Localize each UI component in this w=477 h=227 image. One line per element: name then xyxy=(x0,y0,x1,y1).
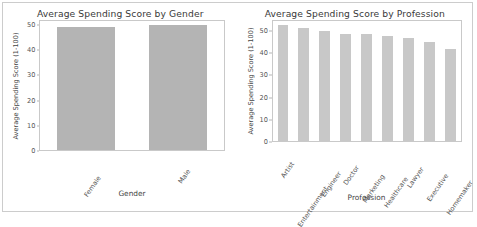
bar-artist[interactable] xyxy=(278,25,289,141)
bar-slot xyxy=(132,21,224,150)
y-tick-label: 40 xyxy=(27,46,35,54)
x-tick-slot: Executive xyxy=(419,146,440,186)
bar-slot xyxy=(377,21,398,141)
bar-female[interactable] xyxy=(57,27,114,150)
y-tick-mark xyxy=(37,125,40,126)
y-tick-mark xyxy=(37,151,40,152)
y-tick-mark xyxy=(269,142,272,143)
bar-slot xyxy=(314,21,335,141)
x-axis-label-gender: Gender xyxy=(39,189,225,198)
y-tick-mark xyxy=(37,50,40,51)
bar-healthcare[interactable] xyxy=(382,36,393,141)
chart-title-gender: Average Spending Score by Gender xyxy=(3,8,238,19)
y-tick-label: 0 xyxy=(31,147,35,155)
bar-male[interactable] xyxy=(149,25,206,150)
x-tick-slot: Marketing xyxy=(356,146,377,186)
y-tick-mark xyxy=(269,119,272,120)
y-tick-label: 50 xyxy=(27,21,35,29)
y-tick-label: 10 xyxy=(260,116,268,124)
x-axis-label-profession: Profession xyxy=(272,193,462,202)
y-axis-label-gender: Average Spending Score (1-100) xyxy=(12,32,20,139)
x-tick-label-male: Male xyxy=(176,168,192,185)
bar-slot xyxy=(293,21,314,141)
y-tick-mark xyxy=(269,75,272,76)
bar-engineer[interactable] xyxy=(319,31,330,141)
bar-slot xyxy=(356,21,377,141)
y-tick-label: 10 xyxy=(27,122,35,130)
x-tick-slot: Lawyer xyxy=(398,146,419,186)
y-tick-mark xyxy=(269,53,272,54)
y-tick-label: 30 xyxy=(27,71,35,79)
x-tick-slot: Homemaker xyxy=(440,146,461,186)
bar-slot xyxy=(273,21,294,141)
x-tick-slot: Entertainment xyxy=(293,146,314,186)
bar-entertainment[interactable] xyxy=(298,28,309,141)
y-axis-label-profession: Average Spending Score (1-100) xyxy=(247,27,255,134)
y-tick-mark xyxy=(269,31,272,32)
bar-slot xyxy=(419,21,440,141)
bar-lawyer[interactable] xyxy=(403,38,414,141)
bar-slot xyxy=(335,21,356,141)
y-tick-mark xyxy=(37,25,40,26)
x-tick-slot: Engineer xyxy=(314,146,335,186)
chart-title-profession: Average Spending Score by Profession xyxy=(238,8,473,19)
y-tick-label: 40 xyxy=(260,49,268,57)
bar-slot xyxy=(440,21,461,141)
y-tick-mark xyxy=(37,75,40,76)
x-tick-slot: Doctor xyxy=(335,146,356,186)
y-tick-label: 0 xyxy=(264,138,268,146)
y-tick-label: 30 xyxy=(260,71,268,79)
bars-gender xyxy=(40,21,224,150)
bar-doctor[interactable] xyxy=(340,34,351,141)
bar-homemaker[interactable] xyxy=(445,49,456,142)
x-tick-slot: Healthcare xyxy=(377,146,398,186)
x-tick-labels-profession: ArtistEntertainmentEngineerDoctorMarketi… xyxy=(272,146,462,186)
bar-slot xyxy=(398,21,419,141)
bar-executive[interactable] xyxy=(424,42,435,141)
chart-panel-gender: Average Spending Score by Gender Average… xyxy=(3,3,238,211)
bar-slot xyxy=(40,21,132,150)
y-tick-label: 50 xyxy=(260,27,268,35)
plot-area-profession xyxy=(272,20,462,142)
figure-frame: Average Spending Score by Gender Average… xyxy=(2,2,473,212)
x-tick-slot: Artist xyxy=(272,146,293,186)
y-tick-mark xyxy=(37,100,40,101)
chart-panel-profession: Average Spending Score by Profession Ave… xyxy=(238,3,473,211)
plot-area-gender xyxy=(39,20,225,151)
bars-profession xyxy=(273,21,461,141)
y-tick-label: 20 xyxy=(260,94,268,102)
bar-marketing[interactable] xyxy=(361,34,372,141)
y-tick-mark xyxy=(269,97,272,98)
y-tick-label: 20 xyxy=(27,97,35,105)
